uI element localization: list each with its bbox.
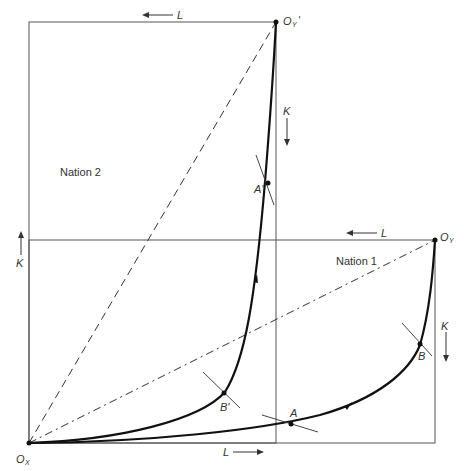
mid-l-label: L (381, 227, 387, 239)
origin-oy-prime-label: O Y ' (283, 15, 301, 28)
arrow-right-k-nation2-icon (284, 118, 290, 146)
point-b-prime (222, 391, 227, 396)
svg-text:Y: Y (449, 237, 455, 244)
arrow-left-k-icon (18, 231, 24, 255)
arrow-top-l-icon (142, 12, 173, 18)
tangent-a-prime (256, 155, 274, 205)
nation2-diagonal (29, 22, 276, 443)
point-b-prime-label: B' (220, 401, 230, 413)
origin-oy (433, 238, 438, 243)
svg-text:O: O (440, 231, 449, 243)
arrow-mid-l-icon (346, 230, 377, 236)
top-l-label: L (177, 9, 183, 21)
point-a-prime-label: A' (253, 183, 264, 195)
arrow-right-k-nation1-icon (443, 332, 449, 362)
point-b-label: B (418, 350, 425, 362)
right-k-nation1-label: K (441, 320, 449, 332)
origin-oy-label: O Y (440, 231, 455, 244)
nation1-diagonal (29, 240, 435, 443)
nation1-label: Nation 1 (336, 255, 377, 267)
origin-ox-label: O X (16, 453, 30, 466)
left-k-label: K (16, 257, 24, 269)
arrow-bottom-l-icon (233, 449, 264, 455)
point-a-prime (266, 181, 271, 186)
origin-ox (27, 441, 32, 446)
svg-text:O: O (16, 453, 25, 465)
nation2-label: Nation 2 (60, 166, 101, 178)
right-k-nation2-label: K (283, 105, 291, 117)
point-a (289, 422, 294, 427)
nation2-contract-curve (29, 22, 276, 443)
point-b (418, 342, 423, 347)
point-a-label: A (289, 407, 297, 419)
svg-text:O: O (283, 15, 292, 27)
bottom-l-label: L (223, 446, 229, 458)
svg-text:': ' (298, 15, 301, 26)
nation2-box (29, 22, 276, 443)
origin-oy-prime (274, 20, 279, 25)
svg-text:X: X (24, 459, 30, 466)
edgeworth-box-diagram: Nation 2 Nation 1 L L L K K K A B B' A' … (0, 0, 464, 471)
